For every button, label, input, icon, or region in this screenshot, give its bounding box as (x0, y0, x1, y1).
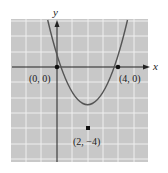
y-axis-label: y (52, 6, 58, 18)
parabola-graph: x y (0, 0) (4, 0) (2, −4) (0, 0, 168, 173)
label-origin: (0, 0) (29, 73, 51, 85)
label-x-intercept: (4, 0) (119, 73, 141, 85)
point-vertex (86, 126, 90, 130)
x-axis-label: x (152, 60, 158, 72)
point-origin (55, 65, 60, 70)
point-x-intercept (116, 65, 121, 70)
label-vertex: (2, −4) (73, 136, 100, 148)
